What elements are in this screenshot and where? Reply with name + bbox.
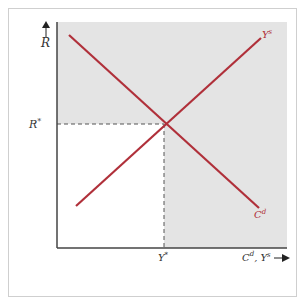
x-axis-label: Cd, Ys [242,250,271,263]
x-axis-arrow-icon [274,254,290,262]
r-star-label: R* [28,117,41,131]
equilibrium-diagram: R R* Y* Cd, Ys Ys Cd [0,0,305,306]
y-axis-arrow-icon [42,21,50,37]
y-star-label: Y* [158,251,169,263]
y-axis-label: R [40,36,50,50]
